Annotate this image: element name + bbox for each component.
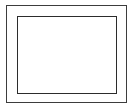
outer-rectangle [6,5,127,103]
inner-rectangle [17,16,117,94]
inner-rectangle-interior [18,17,116,93]
diagram-canvas [0,0,136,111]
